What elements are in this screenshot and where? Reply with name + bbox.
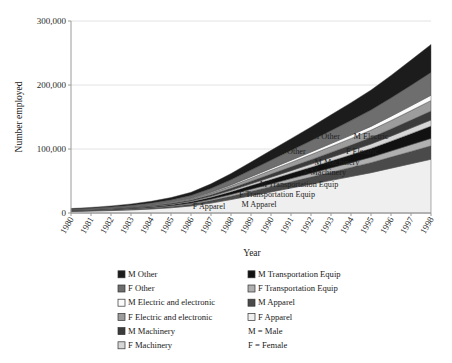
x-tick-label: 1992 bbox=[298, 215, 316, 236]
legend-label: F Apparel bbox=[258, 312, 293, 322]
figure-container: 0100,000200,000300,000 19801981198219831… bbox=[0, 0, 452, 363]
legend-label: F Other bbox=[128, 283, 155, 293]
plot-annotation: M Other bbox=[312, 132, 340, 141]
legend-swatch bbox=[248, 285, 255, 292]
x-tick-label: 1997 bbox=[398, 215, 416, 236]
legend-label: M Machinery bbox=[128, 326, 176, 336]
y-axis-title: Number employed bbox=[14, 81, 24, 152]
legend-swatch bbox=[118, 328, 125, 335]
y-tick-label: 100,000 bbox=[37, 144, 67, 154]
y-axis-tick-labels: 0100,000200,000300,000 bbox=[37, 16, 67, 218]
y-tick-label: 200,000 bbox=[37, 80, 67, 90]
legend-label: M Electric and electronic bbox=[128, 297, 215, 307]
x-tick-label: 1991 bbox=[278, 215, 296, 236]
legend-swatch bbox=[118, 299, 125, 306]
stacked-area-chart: 0100,000200,000300,000 19801981198219831… bbox=[0, 0, 452, 363]
plot-annotation: M Transportation Equip bbox=[260, 180, 339, 189]
x-tick-label: 1994 bbox=[338, 215, 356, 236]
plot-annotation: F Apparel bbox=[193, 202, 226, 211]
plot-annotation: F Machinery bbox=[304, 168, 347, 177]
legend-note: M = Male bbox=[248, 326, 283, 336]
x-tick-label: 1996 bbox=[378, 215, 396, 236]
legend-label: M Apparel bbox=[258, 297, 296, 307]
legend-swatch bbox=[248, 313, 255, 320]
plot-annotation: M Electric bbox=[354, 132, 389, 141]
x-tick-label: 1990 bbox=[258, 215, 276, 236]
plot-annotation: M Machinery bbox=[315, 158, 361, 167]
x-tick-label: 1982 bbox=[98, 215, 116, 236]
legend-label: F Machinery bbox=[128, 340, 173, 350]
legend-swatch bbox=[118, 285, 125, 292]
legend-note: F = Female bbox=[248, 340, 287, 350]
x-tick-label: 1995 bbox=[358, 215, 376, 236]
x-axis-title: Year bbox=[243, 248, 261, 258]
legend-swatch bbox=[248, 271, 255, 278]
x-tick-label: 1993 bbox=[318, 215, 336, 236]
x-tick-label: 1989 bbox=[238, 215, 256, 236]
x-tick-label: 1985 bbox=[158, 215, 176, 236]
x-tick-label: 1981 bbox=[78, 215, 96, 236]
x-tick-label: 1986 bbox=[178, 215, 196, 236]
x-axis-tick-labels: 1980198119821983198419851986198719881989… bbox=[58, 215, 436, 236]
chart-legend: M OtherF OtherM Electric and electronicF… bbox=[118, 269, 341, 350]
x-tick-label: 1998 bbox=[418, 215, 436, 236]
plot-annotation: M Apparel bbox=[241, 200, 277, 209]
y-tick-label: 300,000 bbox=[37, 16, 67, 26]
legend-label: F Transportation Equip bbox=[258, 283, 338, 293]
legend-swatch bbox=[248, 299, 255, 306]
plot-annotation: F Electric bbox=[346, 147, 378, 156]
plot-annotation: F Other bbox=[280, 147, 306, 156]
x-tick-label: 1984 bbox=[138, 215, 156, 236]
legend-swatch bbox=[118, 271, 125, 278]
legend-label: M Other bbox=[128, 269, 157, 279]
area-series-group bbox=[71, 44, 431, 213]
x-tick-label: 1988 bbox=[218, 215, 236, 236]
x-tick-label: 1983 bbox=[118, 215, 136, 236]
x-tick-label: 1987 bbox=[198, 215, 216, 236]
legend-label: F Electric and electronic bbox=[128, 312, 212, 322]
legend-swatch bbox=[118, 313, 125, 320]
legend-swatch bbox=[118, 342, 125, 349]
legend-label: M Transportation Equip bbox=[258, 269, 341, 279]
plot-annotation: F Transportation Equip bbox=[239, 190, 315, 199]
